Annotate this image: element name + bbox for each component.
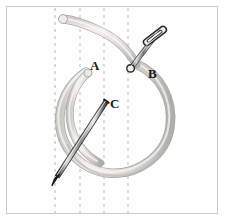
needle-b-highlight [130, 32, 157, 67]
needle-c-point [52, 175, 59, 186]
figure-container: A B C [0, 0, 225, 221]
label-a: A [90, 58, 100, 73]
figure-illustration: A B C [0, 0, 225, 221]
label-b: B [148, 66, 157, 81]
cord-tail-end-cap [59, 15, 68, 24]
needle-b-eye [142, 25, 167, 47]
label-c: C [110, 96, 119, 111]
needle-b-tip [127, 65, 135, 72]
cord-tail [63, 19, 136, 64]
